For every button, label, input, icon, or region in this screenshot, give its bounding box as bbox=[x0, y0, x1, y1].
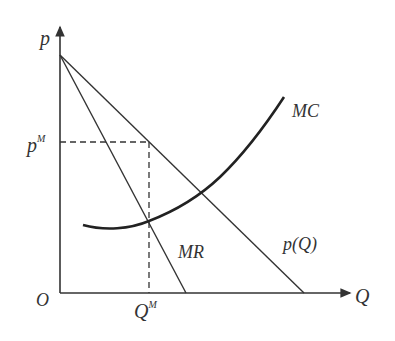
mc-label: MC bbox=[291, 101, 320, 121]
monopoly-diagram: p Q O pM QM MC MR p(Q) bbox=[0, 0, 395, 341]
quantity-marker-label: QM bbox=[134, 299, 157, 322]
mc-curve bbox=[83, 97, 284, 228]
x-axis-label: Q bbox=[355, 285, 370, 307]
mr-curve bbox=[60, 55, 186, 293]
origin-label: O bbox=[36, 290, 49, 310]
demand-label: p(Q) bbox=[281, 234, 317, 255]
mr-label: MR bbox=[177, 242, 204, 262]
y-axis-label: p bbox=[38, 27, 50, 50]
price-marker-label: pM bbox=[25, 133, 46, 157]
